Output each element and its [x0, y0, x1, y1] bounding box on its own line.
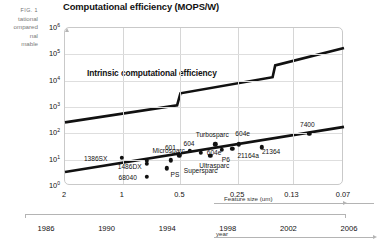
year-axis-tick-label: 1986 — [23, 224, 69, 233]
data-point-label: Ultrasparc — [199, 162, 229, 169]
x-axis-tick-label: 2 — [44, 190, 84, 199]
x-axis-title: Feature size (um) — [224, 195, 272, 202]
figure-caption: FIG. 1 tational ompared nal mable — [0, 6, 38, 49]
y-gridline — [65, 81, 342, 82]
year-axis-right-cap — [345, 214, 346, 218]
year-axis-line — [25, 214, 345, 215]
year-axis-left-cap — [25, 214, 26, 218]
data-point-label: 7400 — [300, 120, 315, 127]
data-point-label: Turbosparc — [196, 131, 229, 138]
caption-line-0: tational — [0, 15, 38, 24]
figure-number: FIG. 1 — [0, 6, 38, 15]
intrinsic-annotation: Intrinsic computational efficiency — [87, 68, 217, 78]
caption-line-1: ompared — [0, 23, 38, 32]
data-point-label: 1486DX — [118, 163, 142, 170]
y-axis-tick-label: 104 — [36, 75, 60, 85]
x-axis-tick-label: 0.07 — [323, 190, 363, 199]
caption-line-2: nal — [0, 32, 38, 41]
year-axis-arrow — [373, 235, 377, 239]
y-axis-tick-label: 103 — [36, 101, 60, 111]
x-axis-tick-label: 0.13 — [272, 190, 312, 199]
y-axis-tick-label: 106 — [36, 22, 60, 32]
caption-line-3: mable — [0, 40, 38, 49]
year-axis-tick-label: 2002 — [265, 224, 311, 233]
data-point-label: P6 — [222, 155, 230, 162]
data-point-label: 21164a — [237, 151, 259, 158]
year-arrow-line — [214, 237, 374, 238]
year-axis-title: year — [216, 230, 228, 237]
y-gridline — [65, 54, 342, 55]
year-axis-tick-label: 1990 — [84, 224, 130, 233]
feature-size-axis-arrow — [343, 201, 347, 205]
chart-title: Computational efficiency (MOPS/W) — [63, 1, 219, 12]
data-point-label: PS — [171, 171, 180, 178]
data-point-label: 68040 — [119, 173, 137, 180]
y-axis-arrow — [65, 28, 69, 32]
data-point-label: 601 — [165, 144, 176, 151]
year-axis-tick-label: 2006 — [326, 224, 372, 233]
feature-size-axis-line — [214, 203, 374, 204]
x-axis-tick-label: 1 — [102, 190, 142, 199]
data-point-label: 604 — [183, 140, 194, 147]
y-axis-tick-label: 102 — [36, 127, 60, 137]
data-point-label: 604e — [235, 130, 250, 137]
y-axis-tick-label: 105 — [36, 48, 60, 58]
y-gridline — [65, 107, 342, 108]
y-axis-tick-label: 100 — [36, 180, 60, 190]
intrinsic-efficiency-curve — [65, 48, 344, 123]
y-axis-tick-label: 101 — [36, 154, 60, 164]
data-point-label: 1386SX — [84, 155, 107, 162]
x-axis-tick-label: 0.5 — [159, 190, 199, 199]
year-axis-tick-label: 1994 — [144, 224, 190, 233]
data-point-label: 21364 — [262, 148, 280, 155]
